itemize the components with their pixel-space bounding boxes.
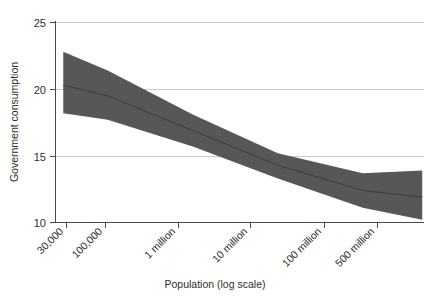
confidence-band xyxy=(63,52,422,220)
y-tick-label-20: 20 xyxy=(34,84,46,96)
x-axis-tick-labels: 30,000 100,000 1 million 10 million 100 … xyxy=(34,225,376,269)
x-tick-label-1-million: 1 million xyxy=(142,225,178,261)
x-axis-title: Population (log scale) xyxy=(165,278,266,290)
x-tick-label-10-million: 10 million xyxy=(210,225,250,265)
x-axis-ticks xyxy=(67,223,378,229)
x-tick-label-100000: 100,000 xyxy=(69,225,104,260)
y-axis-tick-labels: 25 20 15 10 xyxy=(34,17,46,229)
regression-chart: 25 20 15 10 30,000 100,000 1 million 10 … xyxy=(0,0,425,300)
chart-container: 25 20 15 10 30,000 100,000 1 million 10 … xyxy=(0,0,425,300)
confidence-band-group xyxy=(63,52,422,220)
x-tick-label-30000: 30,000 xyxy=(34,225,65,256)
x-tick-label-100-million: 100 million xyxy=(279,225,323,269)
y-tick-label-25: 25 xyxy=(34,17,46,29)
y-axis-ticks xyxy=(50,23,56,223)
y-tick-label-15: 15 xyxy=(34,151,46,163)
y-tick-label-10: 10 xyxy=(34,217,46,229)
y-axis-title: Government consumption xyxy=(8,62,20,182)
x-tick-label-500-million: 500 million xyxy=(332,225,376,269)
